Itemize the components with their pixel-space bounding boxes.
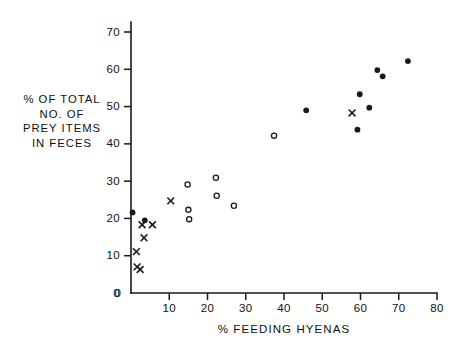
data-point-cross <box>167 198 174 205</box>
data-point-filled-circle <box>380 73 386 79</box>
data-point-open-circle <box>271 133 276 138</box>
x-tick-label: 70 <box>392 302 406 314</box>
y-tick-label: 10 <box>106 249 120 261</box>
data-point-filled-circle <box>355 127 361 133</box>
y-tick-label: 60 <box>106 63 120 75</box>
y-axis-ticks: 010203040506070 <box>106 26 131 299</box>
data-point-cross <box>141 234 148 241</box>
data-point-filled-circle <box>357 91 363 97</box>
x-tick-label: 0 <box>115 287 122 299</box>
data-point-filled-circle <box>130 210 136 216</box>
axes <box>131 22 437 293</box>
data-point-cross <box>137 266 144 273</box>
data-point-filled-circle <box>303 107 309 113</box>
y-tick-label: 50 <box>106 100 120 112</box>
data-point-cross <box>139 221 146 228</box>
y-tick-label: 70 <box>106 26 120 38</box>
x-tick-label: 10 <box>162 302 176 314</box>
x-tick-label: 40 <box>277 302 291 314</box>
x-tick-label: 20 <box>201 302 215 314</box>
y-tick-label: 20 <box>106 212 120 224</box>
data-point-open-circle <box>213 175 218 180</box>
x-axis-ticks: 01020304050607080 <box>115 287 444 314</box>
x-axis-title: % FEEDING HYENAS <box>218 323 351 335</box>
data-point-filled-circle <box>374 67 380 73</box>
data-point-cross <box>349 110 356 117</box>
data-point-filled-circle <box>405 58 411 64</box>
plot-canvas: 010203040506070 01020304050607080 % FEED… <box>0 0 459 349</box>
data-point-cross <box>149 221 156 228</box>
x-tick-label: 50 <box>315 302 329 314</box>
data-point-open-circle <box>214 193 219 198</box>
data-point-open-circle <box>231 203 236 208</box>
data-point-open-circle <box>186 207 191 212</box>
y-tick-label: 40 <box>106 137 120 149</box>
x-tick-label: 30 <box>239 302 253 314</box>
scatter-plot-figure: % OF TOTAL NO. OF PREY ITEMS IN FECES 01… <box>0 0 459 349</box>
data-point-filled-circle <box>366 105 372 111</box>
data-point-open-circle <box>187 217 192 222</box>
x-tick-label: 60 <box>354 302 368 314</box>
data-markers <box>130 58 411 273</box>
data-point-open-circle <box>185 182 190 187</box>
x-tick-label: 80 <box>430 302 444 314</box>
y-tick-label: 30 <box>106 175 120 187</box>
data-point-cross <box>133 248 140 255</box>
